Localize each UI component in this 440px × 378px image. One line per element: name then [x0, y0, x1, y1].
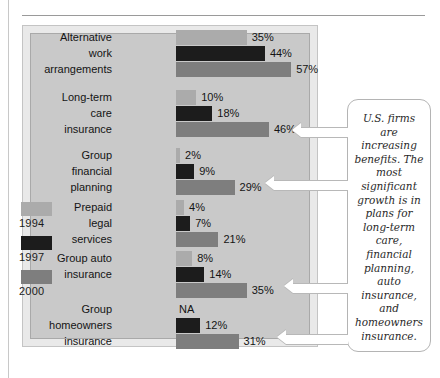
connector-financial-planning-arrow-icon — [265, 176, 274, 190]
bar-row: planning29% — [60, 180, 290, 195]
bar-row: work44% — [60, 46, 290, 61]
bar-row: Alternative35% — [60, 30, 290, 45]
category-label: services — [0, 232, 112, 247]
bar-value-label: 31% — [244, 334, 266, 349]
bar-row: legal7% — [60, 216, 290, 231]
bar-value-label: 14% — [209, 267, 231, 282]
connector-long-term-care — [301, 127, 348, 138]
bar-row: services21% — [60, 232, 290, 247]
category-label: Prepaid — [0, 200, 112, 215]
bar-group-group-auto-insurance: Group auto8%insurance14%35% — [60, 251, 290, 299]
category-label: insurance — [0, 267, 112, 282]
bar-1997 — [176, 46, 265, 61]
bar-1997 — [176, 216, 190, 231]
bar-group-group-financial-planning: Group2%financial9%planning29% — [60, 148, 290, 196]
bar-row: insurance46% — [60, 122, 290, 137]
bar-value-label: 35% — [252, 283, 274, 298]
bar-value-label: 44% — [270, 46, 292, 61]
bar-1994 — [176, 148, 180, 163]
connector-long-term-care-arrow-icon — [292, 123, 301, 137]
bar-1997 — [176, 267, 204, 282]
category-label: Group auto — [0, 251, 112, 266]
bar-value-na: NA — [179, 302, 194, 317]
bar-1994 — [176, 200, 184, 215]
category-label: insurance — [0, 334, 112, 349]
category-label: legal — [0, 216, 112, 231]
bar-value-label: 9% — [199, 164, 215, 179]
bar-row: arrangements57% — [60, 62, 290, 77]
bar-value-label: 10% — [201, 90, 223, 105]
bar-value-label: 29% — [240, 180, 262, 195]
bar-row: insurance31% — [60, 334, 290, 349]
bar-value-label: 21% — [223, 232, 245, 247]
connector-auto-insurance — [293, 283, 348, 294]
category-label: insurance — [0, 122, 112, 137]
bar-value-label: 35% — [252, 30, 274, 45]
bar-2000 — [176, 62, 291, 77]
bar-row: homeowners12% — [60, 318, 290, 333]
bar-row: Prepaid4% — [60, 200, 290, 215]
bar-value-label: 2% — [185, 148, 201, 163]
bar-row: financial9% — [60, 164, 290, 179]
connector-homeowners-insurance — [286, 334, 348, 345]
bar-row: Group2% — [60, 148, 290, 163]
connector-auto-insurance-arrow-icon — [284, 279, 293, 293]
connector-homeowners-insurance-arrow-icon — [277, 330, 286, 344]
category-label: arrangements — [0, 62, 112, 77]
bar-2000 — [176, 283, 247, 298]
bar-row: 35% — [60, 283, 290, 298]
callout-box: U.S. firms are increasing benefits. The … — [347, 99, 431, 352]
bar-1997 — [176, 164, 194, 179]
bar-value-label: 4% — [189, 200, 205, 215]
category-label: Alternative — [0, 30, 112, 45]
bar-group-prepaid-legal-services: Prepaid4%legal7%services21% — [60, 200, 290, 248]
bar-row: Group auto8% — [60, 251, 290, 266]
callout-text: U.S. firms are increasing benefits. The … — [354, 112, 424, 343]
category-label: work — [0, 46, 112, 61]
bar-1994 — [176, 251, 192, 266]
category-label: planning — [0, 180, 112, 195]
bar-1994 — [176, 90, 196, 105]
bar-value-label: 12% — [205, 318, 227, 333]
bar-2000 — [176, 334, 239, 349]
category-label: Long-term — [0, 90, 112, 105]
bar-value-label: 7% — [195, 216, 211, 231]
bar-2000 — [176, 122, 269, 137]
connector-financial-planning — [274, 180, 348, 191]
bar-2000 — [176, 232, 218, 247]
bar-1997 — [176, 106, 212, 121]
bar-group-long-term-care-insurance: Long-term10%care18%insurance46% — [60, 90, 290, 138]
category-label: Group — [0, 148, 112, 163]
bar-row: care18% — [60, 106, 290, 121]
category-label: care — [0, 106, 112, 121]
bar-row: insurance14% — [60, 267, 290, 282]
category-label: financial — [0, 164, 112, 179]
category-label: Group — [0, 302, 112, 317]
bar-row: GroupNA — [60, 302, 290, 317]
bar-value-label: 57% — [296, 62, 318, 77]
bar-value-label: 18% — [217, 106, 239, 121]
bar-group-alternative-work-arrangements: Alternative35%work44%arrangements57% — [60, 30, 290, 78]
bar-2000 — [176, 180, 235, 195]
bar-value-label: 8% — [197, 251, 213, 266]
bar-1997 — [176, 318, 200, 333]
category-label: homeowners — [0, 318, 112, 333]
bar-row: Long-term10% — [60, 90, 290, 105]
bar-group-group-homeowners-insurance: GroupNAhomeowners12%insurance31% — [60, 302, 290, 350]
bar-1994 — [176, 30, 247, 45]
